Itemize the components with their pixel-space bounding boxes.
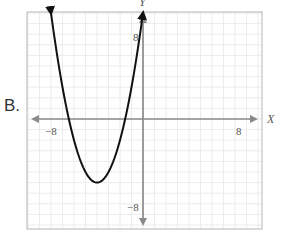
grid-lines [27,12,262,229]
y-tick-label-neg8: −8 [127,201,139,213]
x-tick-label-neg8: −8 [45,125,57,137]
y-axis-label: Y [139,0,147,9]
graph: X Y −8 8 8 −8 [0,0,286,247]
x-axis-label: X [266,112,275,126]
x-tick-label-8: 8 [236,125,242,137]
